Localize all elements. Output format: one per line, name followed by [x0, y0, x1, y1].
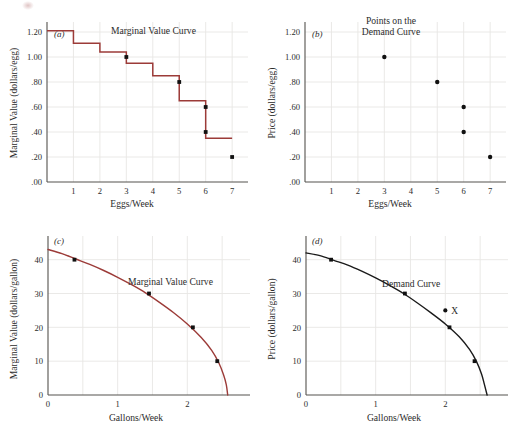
y-tick-label: 10 [292, 356, 301, 366]
y-tick-label: .40 [289, 127, 300, 137]
x-tick-label: 0 [46, 399, 50, 409]
panel-a-x-tick-labels: 1234567 [71, 186, 235, 196]
panel-b-demand-points-eggs: 1234567 .00.20.40.60.801.001.20 (b) Poin… [258, 0, 516, 214]
y-tick-label: 40 [292, 255, 301, 265]
panel-c-x-axis-title: Gallons/Week [109, 412, 163, 423]
panel-b-label: (b) [312, 29, 323, 39]
y-tick-label: 40 [34, 255, 43, 265]
figure-panel-grid: 1234567 .00.20.40.60.801.001.20 (a) Marg… [0, 0, 516, 428]
data-point-marker [461, 105, 465, 109]
panel-d-x-tick-labels: 012 [304, 399, 448, 409]
panel-c-x-tick-labels: 012 [46, 399, 190, 409]
panel-d-demand-curve-gallons: 012 010203040 X (d) Demand Curve Gallons… [258, 214, 516, 428]
x-tick-label: 3 [124, 186, 128, 196]
data-point-marker [191, 325, 195, 329]
panel-d-plot: 012 010203040 X (d) Demand Curve Gallons… [258, 214, 516, 428]
y-tick-label: .80 [31, 77, 42, 87]
data-point-marker [147, 292, 151, 296]
panel-a-gridlines [47, 22, 248, 182]
data-point-marker [204, 105, 208, 109]
panel-d-annotation: Demand Curve [382, 278, 440, 289]
y-tick-label: .00 [289, 177, 300, 187]
panel-b-axes [305, 22, 506, 182]
y-tick-label: 30 [34, 289, 43, 299]
x-tick-label: 4 [151, 186, 156, 196]
data-point-marker [461, 130, 465, 134]
panel-d-x-axis-title: Gallons/Week [367, 412, 421, 423]
data-point-marker [204, 130, 208, 134]
y-tick-label: 0 [39, 390, 43, 400]
y-tick-label: .00 [31, 177, 42, 187]
panel-d-y-axis-title: Price (dollars/gallon) [266, 278, 278, 359]
panel-a-step-curve [47, 31, 232, 139]
panel-b-x-tick-labels: 1234567 [329, 186, 493, 196]
panel-c-plot: 012 010203040 (c) Marginal Value Curve G… [0, 214, 258, 428]
y-tick-label: 1.20 [27, 27, 42, 37]
y-tick-label: 10 [34, 356, 43, 366]
x-tick-label: 2 [443, 399, 447, 409]
panel-c-y-tick-labels: 010203040 [34, 255, 43, 400]
panel-c-y-axis-title: Marginal Value (dollars/gallon) [8, 259, 20, 380]
panel-a-x-axis-title: Eggs/Week [110, 198, 154, 209]
x-tick-label: 3 [382, 186, 386, 196]
panel-a-axes [47, 22, 248, 182]
y-tick-label: .40 [31, 127, 42, 137]
data-point-marker [124, 55, 128, 59]
y-tick-label: .60 [31, 102, 42, 112]
panel-a-plot: 1234567 .00.20.40.60.801.001.20 (a) Marg… [0, 0, 258, 214]
panel-a-y-axis-title: Marginal Value (dollars/egg) [8, 48, 20, 158]
y-tick-label: 30 [292, 289, 301, 299]
panel-b-annotation-line2: Demand Curve [362, 26, 420, 37]
x-tick-label: 7 [230, 186, 235, 196]
y-tick-label: 1.20 [285, 27, 300, 37]
data-point-marker [403, 292, 407, 296]
panel-b-x-axis-title: Eggs/Week [368, 198, 412, 209]
y-tick-label: 20 [292, 323, 301, 333]
x-tick-label: 2 [356, 186, 360, 196]
y-tick-label: 1.00 [285, 52, 300, 62]
y-tick-label: 1.00 [27, 52, 42, 62]
x-tick-label: 1 [329, 186, 333, 196]
data-point-marker [488, 155, 492, 159]
panel-b-annotation-line1: Points on the [366, 15, 416, 26]
x-tick-label: 6 [204, 186, 209, 196]
panel-c-annotation: Marginal Value Curve [128, 276, 213, 287]
panel-d-demand-curve [306, 253, 487, 395]
panel-b-y-axis-title: Price (dollars/egg) [266, 67, 278, 138]
data-point-marker [73, 258, 77, 262]
x-tick-label: 6 [462, 186, 467, 196]
data-point-marker [215, 359, 219, 363]
panel-a-y-tick-labels: .00.20.40.60.801.001.20 [27, 27, 42, 187]
panel-c-data-points [73, 258, 220, 363]
panel-b-plot: 1234567 .00.20.40.60.801.001.20 (b) Poin… [258, 0, 516, 214]
panel-c-marginal-value-curve [48, 250, 228, 395]
panel-b-gridlines [305, 22, 506, 182]
panel-d-gridlines [306, 236, 508, 395]
panel-c-marginal-value-gallons: 012 010203040 (c) Marginal Value Curve G… [0, 214, 258, 428]
x-tick-label: 4 [409, 186, 414, 196]
panel-d-y-tick-labels: 010203040 [292, 255, 301, 400]
x-tick-label: 5 [435, 186, 439, 196]
y-tick-label: 20 [34, 323, 43, 333]
y-tick-label: .80 [289, 77, 300, 87]
y-tick-label: 0 [297, 390, 301, 400]
x-tick-label: 2 [98, 186, 102, 196]
panel-d-point-x-marker [443, 308, 447, 312]
x-tick-label: 1 [116, 399, 120, 409]
panel-a-label: (a) [54, 29, 65, 39]
y-tick-label: .60 [289, 102, 300, 112]
x-tick-label: 1 [71, 186, 75, 196]
data-point-marker [435, 80, 439, 84]
data-point-marker [329, 258, 333, 262]
panel-a-annotation: Marginal Value Curve [111, 25, 196, 36]
panel-c-label: (c) [54, 236, 64, 246]
x-tick-label: 7 [488, 186, 493, 196]
y-tick-label: .20 [289, 152, 300, 162]
panel-a-marginal-value-eggs: 1234567 .00.20.40.60.801.001.20 (a) Marg… [0, 0, 258, 214]
data-point-marker [473, 359, 477, 363]
x-tick-label: 5 [177, 186, 181, 196]
data-point-marker [448, 325, 452, 329]
panel-b-y-tick-labels: .00.20.40.60.801.001.20 [285, 27, 300, 187]
x-tick-label: 2 [185, 399, 189, 409]
panel-d-point-x-label: X [451, 306, 458, 316]
